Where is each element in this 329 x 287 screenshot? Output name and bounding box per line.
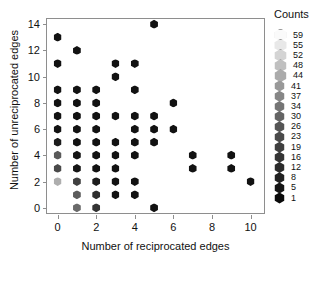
data-point	[188, 164, 197, 173]
legend-swatch-hexagon	[274, 152, 285, 163]
y-tick-label: 0	[34, 202, 40, 214]
data-point	[92, 125, 101, 134]
data-point	[53, 164, 62, 173]
y-tick-label: 6	[34, 123, 40, 135]
legend-label: 52	[293, 51, 303, 60]
data-point	[111, 138, 120, 147]
data-point	[72, 203, 81, 212]
legend-swatch-hexagon	[274, 193, 285, 204]
x-tick-mark	[212, 215, 213, 219]
y-axis-title: Number of unreciprocated edges	[8, 12, 20, 208]
data-point	[92, 85, 101, 94]
legend-swatch-hexagon	[274, 111, 285, 122]
data-point	[92, 151, 101, 160]
legend-entry: 48	[274, 61, 329, 71]
legend-label: 55	[293, 41, 303, 50]
data-point	[111, 151, 120, 160]
data-point	[130, 138, 139, 147]
legend: Counts 5955524844413734302623191612851	[274, 8, 329, 203]
legend-entry: 26	[274, 122, 329, 132]
data-point	[246, 177, 255, 186]
data-point	[111, 190, 120, 199]
data-point	[53, 151, 62, 160]
data-point	[53, 138, 62, 147]
legend-swatch-hexagon	[274, 162, 285, 173]
x-axis-title: Number of reciprocated edges	[46, 240, 265, 252]
y-tick-mark	[43, 129, 47, 130]
legend-entry: 41	[274, 81, 329, 91]
data-point	[72, 98, 81, 107]
legend-label: 19	[291, 143, 301, 152]
legend-entry: 44	[274, 71, 329, 81]
legend-entry: 8	[274, 173, 329, 183]
data-point	[150, 20, 159, 29]
data-point	[72, 125, 81, 134]
data-point	[111, 177, 120, 186]
legend-label: 41	[291, 82, 301, 91]
data-point	[227, 151, 236, 160]
legend-swatch-hexagon	[274, 101, 285, 112]
data-point	[227, 164, 236, 173]
legend-label: 44	[293, 71, 303, 80]
scatter-plot-figure: 02468101214 0246810 Number of reciprocat…	[0, 0, 329, 287]
y-tick-mark	[43, 103, 47, 104]
legend-label: 37	[291, 92, 301, 101]
x-tick-mark	[251, 215, 252, 219]
data-point	[111, 112, 120, 121]
data-point	[150, 138, 159, 147]
data-point	[53, 125, 62, 134]
legend-entry: 1	[274, 193, 329, 203]
legend-label: 1	[291, 194, 296, 203]
data-point	[92, 190, 101, 199]
legend-entry: 52	[274, 50, 329, 60]
data-point	[92, 177, 101, 186]
legend-label: 5	[291, 183, 296, 192]
data-point	[130, 112, 139, 121]
data-point	[130, 125, 139, 134]
x-tick-label: 10	[244, 221, 256, 233]
legend-swatch-hexagon	[274, 172, 285, 183]
legend-label: 12	[291, 163, 301, 172]
data-point	[92, 138, 101, 147]
legend-swatch-hexagon	[274, 182, 285, 193]
data-point	[150, 203, 159, 212]
legend-swatch-hexagon	[274, 121, 285, 132]
data-point	[169, 125, 178, 134]
data-point	[130, 59, 139, 68]
data-point	[92, 164, 101, 173]
data-point	[130, 151, 139, 160]
data-point	[150, 112, 159, 121]
data-point	[169, 98, 178, 107]
y-tick-mark	[43, 77, 47, 78]
data-point	[72, 164, 81, 173]
x-tick-mark	[58, 215, 59, 219]
legend-swatch-hexagon	[274, 81, 285, 92]
data-point	[130, 190, 139, 199]
data-point	[92, 112, 101, 121]
legend-entry: 30	[274, 112, 329, 122]
legend-entry: 34	[274, 101, 329, 111]
y-tick-mark	[43, 50, 47, 51]
data-point	[53, 85, 62, 94]
x-tick-label: 0	[55, 221, 61, 233]
legend-label: 16	[291, 153, 301, 162]
y-tick-label: 14	[28, 18, 40, 30]
data-point	[92, 98, 101, 107]
data-point	[92, 203, 101, 212]
data-point	[53, 33, 62, 42]
legend-swatch-hexagon	[274, 91, 285, 102]
data-point	[53, 112, 62, 121]
x-tick-mark	[173, 215, 174, 219]
y-tick-mark	[43, 24, 47, 25]
y-tick-label: 10	[28, 71, 40, 83]
y-tick-mark	[43, 155, 47, 156]
data-point	[72, 138, 81, 147]
plot-area: 02468101214 0246810	[46, 18, 265, 214]
legend-swatch-hexagon	[274, 142, 285, 153]
legend-entry: 37	[274, 91, 329, 101]
data-point	[188, 151, 197, 160]
y-tick-label: 4	[34, 149, 40, 161]
legend-label: 8	[291, 173, 296, 182]
legend-title: Counts	[274, 8, 329, 20]
data-point	[130, 177, 139, 186]
